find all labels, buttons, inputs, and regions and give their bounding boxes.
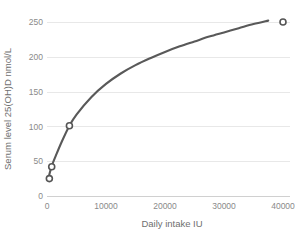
data-point-markers [46,19,286,182]
x-tick-label: 10000 [94,201,118,211]
y-axis-tick-labels: 050100150200250 [29,17,43,201]
chart-container: 050100150200250 010000200003000040000 Da… [0,0,297,231]
gridline-group [47,23,290,197]
y-tick-label: 200 [29,52,43,62]
data-point-marker [49,164,55,170]
data-point-marker [46,176,52,182]
fitted-curve [48,21,268,180]
data-point-marker [280,19,286,25]
y-tick-label: 100 [29,122,43,132]
y-tick-label: 50 [34,156,44,166]
y-tick-label: 150 [29,87,43,97]
data-point-marker [66,123,72,129]
x-tick-label: 30000 [212,201,236,211]
y-axis-title: Serum level 25(OH)D nmol/L [2,48,13,170]
dose-response-chart: 050100150200250 010000200003000040000 Da… [0,0,297,231]
x-tick-label: 0 [45,201,50,211]
y-tick-label: 250 [29,17,43,27]
x-axis-tick-labels: 010000200003000040000 [45,201,295,211]
x-tick-label: 40000 [271,201,295,211]
x-axis-title: Daily intake IU [141,218,202,229]
x-tick-label: 20000 [153,201,177,211]
y-tick-label: 0 [38,191,43,201]
